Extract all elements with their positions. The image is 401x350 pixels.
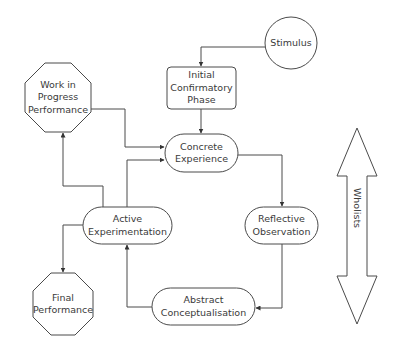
edge-reflective-to-abstract [256, 244, 282, 308]
active-experimentation-node [83, 207, 172, 244]
stimulus-node [265, 17, 317, 69]
edge-active-to-wip [63, 133, 103, 207]
edge-concrete-to-reflective [238, 155, 282, 206]
edge-wip-to-concrete [91, 109, 164, 147]
learning-cycle-diagram [0, 0, 401, 350]
final-performance-node [33, 273, 93, 335]
concrete-experience-node [165, 134, 238, 172]
initial-confirmatory-phase-node [167, 67, 236, 109]
edge-active-to-final [63, 225, 83, 272]
work-in-progress-performance-node [25, 63, 91, 132]
edge-abstract-to-active [127, 245, 152, 307]
reflective-observation-node [245, 207, 318, 244]
edge-active-to-concrete [127, 160, 164, 207]
abstract-conceptualisation-node [152, 288, 255, 325]
wholists-label: Wholists [351, 183, 363, 233]
edge-stimulus-to-initial [201, 47, 265, 66]
